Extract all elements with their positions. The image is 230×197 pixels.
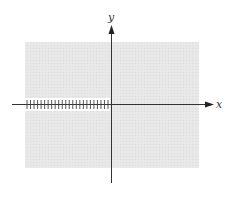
complex-plane-diagram: x y [0, 0, 230, 197]
x-axis-arrow-icon [205, 102, 214, 108]
y-axis-label: y [107, 11, 115, 24]
x-axis-label: x [216, 98, 223, 111]
y-axis-arrow-icon [109, 25, 115, 34]
